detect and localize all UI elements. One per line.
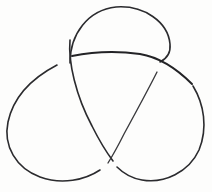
- diagram-background: [0, 0, 212, 192]
- knot-diagram-figure: [0, 0, 212, 192]
- knot-diagram-canvas: [0, 0, 212, 192]
